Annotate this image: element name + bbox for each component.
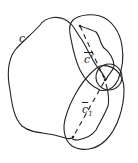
diagram-canvas <box>0 0 138 163</box>
point-junction <box>104 79 107 82</box>
label-c: c <box>19 33 25 44</box>
dashed-path-upper <box>80 26 104 78</box>
label-c-prime: c' <box>84 54 93 65</box>
label-c1: c1 <box>82 104 93 118</box>
junction-disk <box>96 64 122 90</box>
curve-c <box>8 17 72 138</box>
point-upper <box>79 25 82 28</box>
label-c1-sub: 1 <box>88 110 92 118</box>
point-lower <box>72 136 75 139</box>
